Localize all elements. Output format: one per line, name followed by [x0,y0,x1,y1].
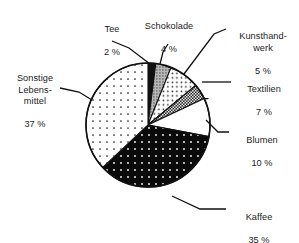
slice-label-textilien-name: Textilien [233,84,295,95]
slice-label-tee: Tee 2 % [83,13,141,70]
slice-label-tee-name: Tee [83,24,141,35]
leader-line-kaffee [172,196,226,209]
slice-label-blumen-name: Blumen [231,135,293,146]
slice-label-sonstige-lebensmittel: Sonstige Lebens- mittel 37 % [6,62,64,142]
slice-label-blumen-pct: 10 % [231,158,293,169]
slice-label-blumen: Blumen 10 % [231,124,293,181]
slice-label-tee-pct: 2 % [83,47,141,58]
slice-label-schokolade: Schokolade 4 % [136,10,202,67]
slice-label-textilien-pct: 7 % [233,107,295,118]
slice-label-kaffee-name: Kaffee [228,212,290,223]
slice-label-sonstige-pct: 37 % [6,119,64,130]
slice-label-sonstige-name: Sonstige Lebens- mittel [6,73,64,107]
slice-label-kunsthandwerk-name: Kunsthand- werk [228,31,298,54]
slice-label-kaffee: Kaffee 35 % [228,201,290,243]
leader-line-sonstige [60,88,92,100]
slice-label-kaffee-pct: 35 % [228,235,290,243]
slice-label-schokolade-pct: 4 % [136,44,202,55]
pie-chart-figure: Tee 2 % Schokolade 4 % Kunsthand- werk 5… [0,0,299,243]
slice-label-schokolade-name: Schokolade [136,21,202,32]
slice-label-textilien: Textilien 7 % [233,73,295,130]
